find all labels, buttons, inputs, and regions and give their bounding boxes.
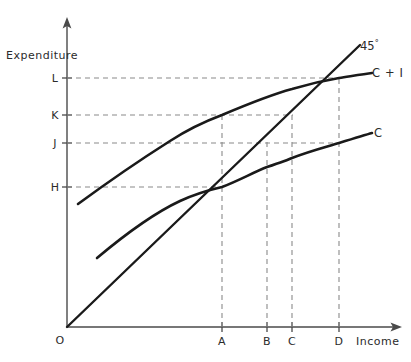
y-tick-label-L: L: [52, 72, 59, 85]
degree-symbol: °: [375, 39, 379, 48]
y-tick-labels: L K J H: [51, 72, 60, 194]
y-axis-title: Expenditure: [6, 49, 78, 62]
x-tick-label-D: D: [335, 335, 344, 348]
horizontal-guide-lines: [67, 78, 341, 187]
forty-five-degree-label: 45°: [360, 39, 379, 54]
curve-label-c-plus-i: C + I: [372, 66, 403, 80]
x-axis-title: Income: [356, 335, 399, 348]
origin-label: O: [55, 334, 64, 347]
forty-five-degree-line: [67, 45, 360, 327]
curve-c: [97, 133, 372, 258]
curve-label-c: C: [374, 126, 383, 140]
x-tick-label-A: A: [218, 335, 226, 348]
y-tick-label-J: J: [52, 137, 57, 150]
x-tick-label-B: B: [263, 335, 271, 348]
y-tick-label-H: H: [51, 181, 60, 194]
axis-group: [63, 17, 402, 331]
diagram-canvas: L K J H A B C D Expenditure Income O 45°…: [0, 0, 411, 362]
curve-c-plus-i: [78, 73, 372, 204]
expenditure-income-diagram: L K J H A B C D Expenditure Income O 45°…: [0, 0, 411, 362]
forty-five-degree-value: 45: [360, 39, 375, 53]
x-tick-label-C: C: [288, 335, 296, 348]
y-tick-label-K: K: [51, 109, 59, 122]
x-tick-labels: A B C D: [218, 335, 343, 348]
